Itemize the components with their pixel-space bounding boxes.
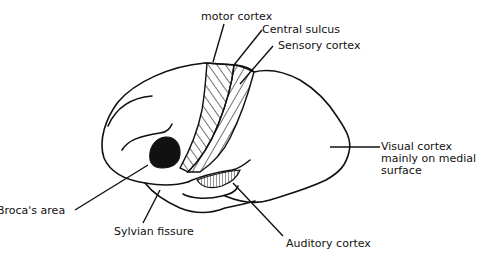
label-visual-cortex-3: surface — [381, 164, 422, 177]
sylvian-leader — [143, 190, 160, 223]
brain-diagram: motor cortex Central sulcus Sensory cort… — [0, 0, 486, 263]
label-auditory-cortex: Auditory cortex — [286, 237, 371, 250]
label-sensory-cortex: Sensory cortex — [278, 39, 361, 52]
label-sylvian-fissure: Sylvian fissure — [114, 225, 194, 238]
brocas-area-region — [150, 137, 180, 168]
label-brocas-area: Broca's area — [0, 204, 65, 217]
label-central-sulcus: Central sulcus — [262, 23, 340, 36]
motor-leader — [213, 24, 224, 62]
central-leader — [234, 30, 262, 65]
frontal-sulcus-upper — [108, 96, 152, 126]
auditory-leader — [233, 183, 283, 236]
broca-leader — [75, 165, 148, 210]
label-motor-cortex: motor cortex — [201, 10, 273, 23]
